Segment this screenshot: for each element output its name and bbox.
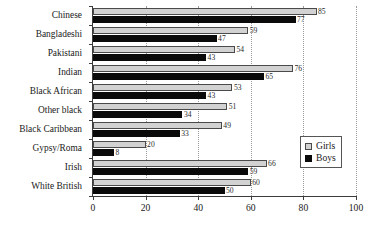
y-axis-tick	[89, 120, 93, 121]
bar-boys	[93, 130, 180, 137]
category-label: Chinese	[0, 11, 82, 20]
bar-value-label: 51	[229, 103, 237, 111]
bar-value-label: 49	[223, 122, 231, 130]
bar-boys	[93, 111, 182, 118]
y-axis-tick	[89, 101, 93, 102]
category-label: Irish	[0, 163, 82, 172]
x-axis-tick	[356, 196, 357, 200]
bar-value-label: 66	[268, 160, 276, 168]
bar-value-label: 34	[184, 111, 192, 119]
bar-girls	[93, 65, 293, 72]
bar-value-label: 20	[147, 141, 155, 149]
x-axis-tick-label: 100	[349, 203, 363, 213]
x-axis-tick	[251, 196, 252, 200]
x-axis-line	[92, 196, 356, 197]
category-axis-labels: ChineseBangladeshiPakistaniIndianBlack A…	[0, 6, 86, 196]
y-axis-tick	[89, 25, 93, 26]
legend-item: Girls	[305, 140, 336, 152]
bar-boys	[93, 16, 296, 23]
bar-chart: ChineseBangladeshiPakistaniIndianBlack A…	[0, 0, 369, 228]
y-axis-tick	[89, 63, 93, 64]
category-label: Other black	[0, 106, 82, 115]
bar-girls	[93, 122, 222, 129]
bar-value-label: 33	[181, 130, 189, 138]
bar-girls	[93, 8, 317, 15]
legend-label: Girls	[316, 141, 335, 151]
x-axis-tick-label: 0	[91, 203, 96, 213]
bar-value-label: 43	[208, 54, 216, 62]
legend-swatch-boys	[305, 155, 312, 162]
y-axis-tick	[89, 44, 93, 45]
category-label: Pakistani	[0, 49, 82, 58]
x-axis-tick	[93, 196, 94, 200]
bar-value-label: 76	[294, 65, 302, 73]
bar-boys	[93, 92, 206, 99]
y-axis-tick	[89, 139, 93, 140]
bar-boys	[93, 73, 264, 80]
category-label: Indian	[0, 68, 82, 77]
bar-value-label: 54	[237, 46, 245, 54]
y-axis-tick	[89, 158, 93, 159]
bar-value-label: 65	[265, 73, 273, 81]
bar-value-label: 47	[218, 35, 226, 43]
bar-value-label: 59	[250, 27, 258, 35]
x-axis-tick-label: 80	[299, 203, 309, 213]
bar-value-label: 50	[226, 187, 234, 195]
bar-boys	[93, 149, 114, 156]
legend-label: Boys	[316, 153, 336, 163]
category-label: Gypsy/Roma	[0, 144, 82, 153]
bar-value-label: 53	[234, 84, 242, 92]
bar-boys	[93, 168, 248, 175]
y-axis-tick	[89, 177, 93, 178]
x-axis-tick	[198, 196, 199, 200]
legend-item: Boys	[305, 152, 336, 164]
category-label: Black Caribbean	[0, 125, 82, 134]
gridline	[356, 6, 357, 196]
x-axis-tick-label: 20	[141, 203, 151, 213]
bar-boys	[93, 54, 206, 61]
bar-value-label: 59	[250, 168, 258, 176]
category-label: Bangladeshi	[0, 30, 82, 39]
bar-value-label: 8	[116, 149, 120, 157]
x-axis-tick-label: 40	[193, 203, 203, 213]
x-axis-tick	[303, 196, 304, 200]
bar-girls	[93, 160, 267, 167]
bar-value-label: 85	[318, 8, 326, 16]
legend-swatch-girls	[305, 143, 312, 150]
bar-boys	[93, 187, 225, 194]
x-axis-tick	[146, 196, 147, 200]
bar-value-label: 77	[297, 16, 305, 24]
bar-value-label: 60	[252, 179, 260, 187]
chart-legend: GirlsBoys	[300, 136, 342, 168]
category-label: White British	[0, 182, 82, 191]
y-axis-tick	[89, 6, 93, 7]
y-axis-tick	[89, 82, 93, 83]
bar-boys	[93, 35, 217, 42]
category-label: Black African	[0, 87, 82, 96]
bar-girls	[93, 103, 227, 110]
bar-value-label: 43	[208, 92, 216, 100]
x-axis-tick-label: 60	[246, 203, 256, 213]
